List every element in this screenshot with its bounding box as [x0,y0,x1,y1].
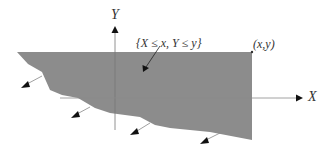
shaded-region [17,52,252,140]
extension-arrowhead-icon-3 [130,128,139,135]
extension-arrow-line-2 [77,107,90,114]
extension-arrowhead-icon-1 [21,81,30,88]
y-axis-arrowhead-icon [112,26,119,33]
extension-arrow-line-4 [206,133,220,140]
region-label: {X ≤ x, Y ≤ y} [136,37,201,49]
corner-point [251,51,253,53]
x-axis-arrowhead-icon [296,95,303,102]
extension-arrow-line-1 [27,76,42,84]
x-axis-label: X [308,90,317,104]
diagram-canvas: Y X {X ≤ x, Y ≤ y} (x,y) [0,0,336,155]
extension-arrowhead-icon-4 [200,137,209,144]
diagram-svg [0,0,336,155]
extension-arrow-line-3 [137,123,150,131]
point-label: (x,y) [253,38,275,50]
extension-arrowhead-icon-2 [71,111,80,118]
y-axis-label: Y [111,8,119,22]
